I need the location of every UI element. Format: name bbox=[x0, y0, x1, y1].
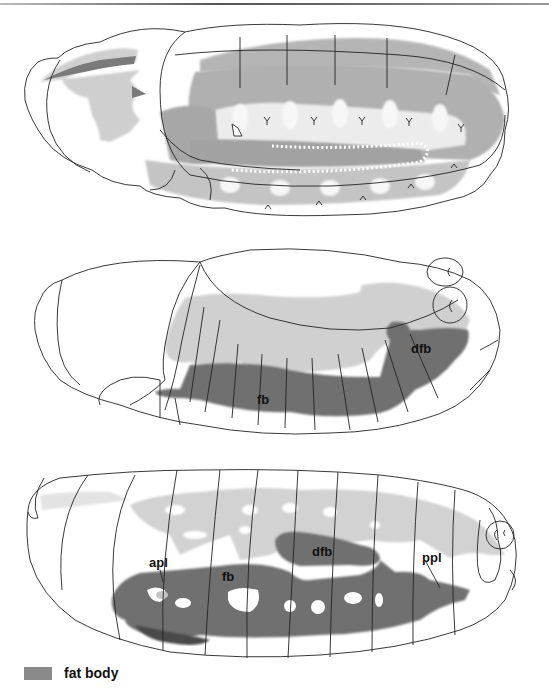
label-dfb-middle: dfb bbox=[411, 342, 431, 355]
label-apl: apl bbox=[149, 556, 168, 569]
label-ppl: ppl bbox=[422, 551, 442, 564]
label-fb-middle: fb bbox=[257, 393, 269, 406]
panel-top-embryo bbox=[25, 24, 509, 216]
embryo-diagram bbox=[0, 0, 549, 693]
label-fb-bottom: fb bbox=[222, 570, 234, 583]
legend-label: fat body bbox=[64, 665, 118, 681]
legend: fat body bbox=[24, 665, 118, 681]
panel-bottom-embryo bbox=[27, 470, 516, 658]
label-dfb-bottom: dfb bbox=[312, 545, 332, 558]
legend-swatch-fat-body bbox=[24, 667, 52, 680]
